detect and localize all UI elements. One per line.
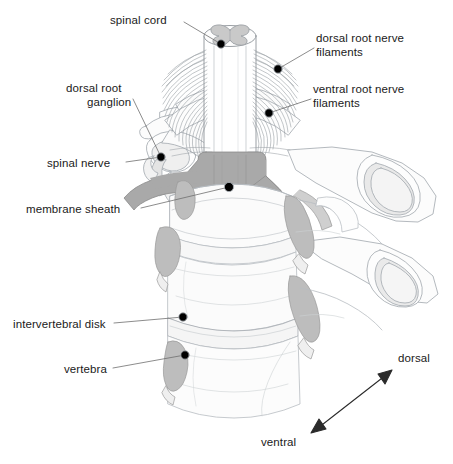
diagram-canvas: spinal cord dorsal root nerve filaments … xyxy=(0,0,453,464)
dot-dorsal-root-filaments xyxy=(274,65,282,73)
label-dorsal-root-nerve-filaments-line2: filaments xyxy=(316,45,363,59)
arrowhead-dorsal xyxy=(378,370,392,384)
arrowhead-ventral xyxy=(311,419,326,433)
label-ventral: ventral xyxy=(261,435,296,449)
leader-dorsal-root-filaments xyxy=(278,48,314,69)
label-intervertebral-disk: intervertebral disk xyxy=(13,317,106,331)
label-vertebra: vertebra xyxy=(64,362,107,376)
label-ventral-root-nerve-filaments-line1: ventral root nerve xyxy=(313,82,404,96)
orientation-arrow xyxy=(311,370,392,433)
label-dorsal-root-ganglion-line1: dorsal root xyxy=(66,81,121,95)
orientation-arrow-shaft xyxy=(318,375,386,428)
anatomy-illustration xyxy=(0,0,453,464)
label-dorsal-root-nerve-filaments-line1: dorsal root nerve xyxy=(316,31,404,45)
dot-spinal-nerve xyxy=(157,153,165,161)
label-dorsal: dorsal xyxy=(398,351,430,365)
dot-spinal-cord xyxy=(217,40,225,48)
label-ventral-root-nerve-filaments-line2: filaments xyxy=(313,96,360,110)
label-spinal-cord: spinal cord xyxy=(110,13,167,27)
label-spinal-nerve: spinal nerve xyxy=(47,156,110,170)
dot-intervertebral-disk xyxy=(179,313,187,321)
dot-vertebra xyxy=(181,351,189,359)
dot-membrane-sheath xyxy=(224,182,233,191)
dot-ventral-root-filaments xyxy=(265,109,273,117)
label-membrane-sheath: membrane sheath xyxy=(26,202,120,216)
label-dorsal-root-ganglion-line2: ganglion xyxy=(87,95,131,109)
